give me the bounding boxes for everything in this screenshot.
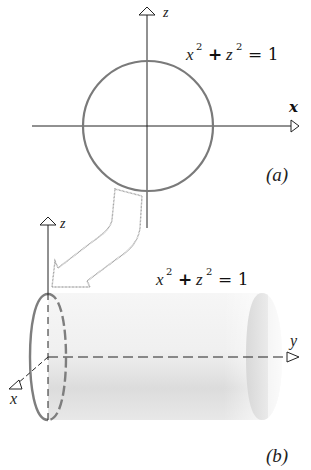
equation-a: x 2 + z 2 = 1 [185,41,278,64]
svg-text:= 1: = 1 [218,269,248,289]
equation-b: x 2 + z 2 = 1 [155,266,248,289]
svg-text:2: 2 [166,266,172,277]
caption-b: (b) [266,445,288,467]
ellipse-front-solid [30,294,48,420]
svg-text:2: 2 [196,41,202,52]
z-axis-arrowhead-a [139,7,155,15]
x-axis-label-a: x [288,98,299,116]
y-axis-label-b: y [288,332,298,350]
caption-a: (a) [266,164,288,186]
svg-text:z: z [195,270,203,289]
svg-text:x: x [185,45,194,64]
connector-arrow [52,189,142,287]
y-axis-arrowhead-b [287,352,299,362]
x-axis-label-b: x [9,390,17,407]
x-axis-arrowhead-b [9,380,22,389]
x-axis-arrowhead-a [291,120,299,132]
svg-text:+: + [178,269,192,289]
svg-text:z: z [225,45,233,64]
z-axis-label-b: z [59,216,66,231]
svg-text:+: + [208,44,222,64]
panel-b: z y x x 2 + z 2 = 1 (b) [9,216,299,467]
z-axis-label-a: z [162,5,169,20]
svg-text:2: 2 [236,41,242,52]
x-axis-line-b [17,357,48,384]
diagram-canvas: z x x 2 + z 2 = 1 (a) z y [0,0,311,470]
svg-text:x: x [155,270,164,289]
z-axis-arrowhead-b [40,217,56,225]
panel-a: z x x 2 + z 2 = 1 (a) [32,5,299,228]
svg-text:2: 2 [206,266,212,277]
svg-text:= 1: = 1 [248,44,278,64]
